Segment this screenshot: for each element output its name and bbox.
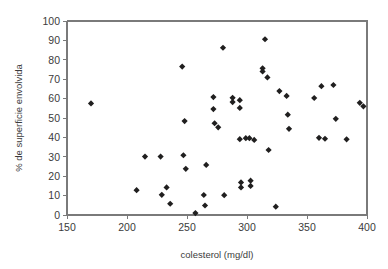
y-tick-label: 90 bbox=[48, 34, 60, 46]
y-tick-label: 0 bbox=[54, 209, 60, 221]
x-tick-label: 200 bbox=[118, 221, 136, 233]
data-point bbox=[344, 136, 350, 142]
data-point bbox=[180, 152, 186, 158]
data-point bbox=[273, 204, 279, 210]
x-tick-label: 300 bbox=[238, 221, 256, 233]
y-tick-label: 20 bbox=[48, 170, 60, 182]
data-point bbox=[262, 36, 268, 42]
data-point bbox=[212, 120, 218, 126]
data-point bbox=[237, 97, 243, 103]
data-point bbox=[276, 88, 282, 94]
x-tick-label: 250 bbox=[178, 221, 196, 233]
data-point bbox=[201, 192, 207, 198]
data-point bbox=[248, 183, 254, 189]
data-points-layer bbox=[88, 36, 367, 216]
y-tick-label: 50 bbox=[48, 112, 60, 124]
data-point bbox=[311, 95, 317, 101]
data-point bbox=[237, 105, 243, 111]
data-point bbox=[220, 45, 226, 51]
data-point bbox=[286, 126, 292, 132]
x-axis-ticks: 150200250300350400 bbox=[58, 215, 376, 233]
data-point bbox=[167, 201, 173, 207]
data-point bbox=[88, 100, 94, 106]
y-tick-label: 70 bbox=[48, 73, 60, 85]
data-point bbox=[134, 187, 140, 193]
data-point bbox=[237, 136, 243, 142]
data-point bbox=[330, 82, 336, 88]
data-point bbox=[238, 184, 244, 190]
data-point bbox=[202, 202, 208, 208]
data-point bbox=[221, 192, 227, 198]
y-tick-label: 10 bbox=[48, 189, 60, 201]
y-tick-label: 40 bbox=[48, 131, 60, 143]
data-point bbox=[264, 74, 270, 80]
x-tick-label: 400 bbox=[358, 221, 376, 233]
data-point bbox=[260, 68, 266, 74]
data-point bbox=[316, 135, 322, 141]
x-tick-label: 350 bbox=[298, 221, 316, 233]
y-axis-title: % de superficie envolvida bbox=[13, 63, 24, 171]
data-point bbox=[210, 106, 216, 112]
data-point bbox=[182, 118, 188, 124]
y-tick-label: 60 bbox=[48, 92, 60, 104]
data-point bbox=[284, 93, 290, 99]
plot-frame bbox=[67, 21, 367, 215]
data-point bbox=[179, 63, 185, 69]
y-tick-label: 100 bbox=[42, 15, 60, 27]
data-point bbox=[159, 192, 165, 198]
data-point bbox=[285, 112, 291, 118]
x-tick-label: 150 bbox=[58, 221, 76, 233]
data-point bbox=[230, 99, 236, 105]
data-point bbox=[210, 94, 216, 100]
y-tick-label: 80 bbox=[48, 54, 60, 66]
data-point bbox=[266, 147, 272, 153]
data-point bbox=[318, 83, 324, 89]
data-point bbox=[158, 154, 164, 160]
data-point bbox=[142, 154, 148, 160]
data-point bbox=[215, 124, 221, 130]
data-point bbox=[322, 136, 328, 142]
data-point bbox=[333, 116, 339, 122]
data-point bbox=[183, 166, 189, 172]
scatter-chart: 0102030405060708090100 15020025030035040… bbox=[0, 0, 388, 269]
plot-frame-outline bbox=[67, 21, 367, 215]
plot-svg: 0102030405060708090100 15020025030035040… bbox=[0, 0, 388, 269]
y-axis-ticks: 0102030405060708090100 bbox=[42, 15, 67, 221]
data-point bbox=[203, 162, 209, 168]
y-tick-label: 30 bbox=[48, 151, 60, 163]
x-axis-title: colesterol (mg/dl) bbox=[181, 249, 254, 260]
data-point bbox=[164, 184, 170, 190]
